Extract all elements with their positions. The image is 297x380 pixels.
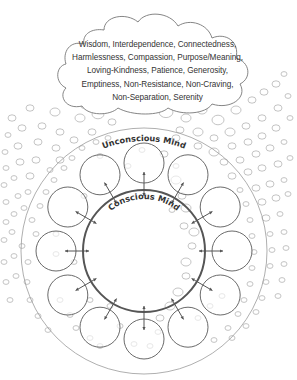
bubble-icon — [93, 140, 99, 145]
small-circle — [200, 187, 240, 227]
bubble-icon — [287, 156, 293, 161]
bubble-icon — [267, 264, 273, 269]
small-circle — [200, 275, 240, 315]
bubble-icon — [2, 150, 8, 155]
bubble-icon — [25, 190, 31, 195]
cloud-text-line: Wisdom, Interdependence, Connectedness, — [70, 38, 245, 51]
bubble-icon — [212, 115, 224, 125]
bubble-icon — [29, 218, 35, 223]
bubble-icon — [260, 89, 268, 95]
bubble-icon — [70, 137, 78, 143]
bubble-icon — [235, 312, 241, 317]
bubble-icon — [1, 183, 7, 188]
bubble-icon — [228, 173, 236, 179]
bubble-icon — [21, 206, 27, 211]
bubble-icon — [263, 280, 269, 285]
bubble-icon — [26, 105, 34, 111]
bubble-icon — [181, 114, 191, 122]
bubble-icon — [181, 258, 191, 266]
bubble-icon — [253, 310, 259, 315]
bubble-icon — [225, 128, 235, 136]
bubble-icon — [267, 232, 273, 237]
bubble-icon — [25, 260, 31, 265]
bubble-icon — [266, 145, 274, 151]
bubble-icon — [272, 195, 280, 201]
bubble-icon — [252, 185, 260, 191]
bubble-icon — [281, 230, 287, 235]
bubble-icon — [14, 143, 22, 149]
bubble-icon — [33, 232, 39, 237]
bubble-icon — [11, 254, 17, 259]
bubble-icon — [156, 315, 164, 321]
bubble-icon — [259, 296, 265, 301]
bubble-icon — [247, 218, 253, 223]
bubble-icon — [237, 188, 243, 193]
bubble-icon — [34, 139, 42, 145]
bubble-icon — [244, 169, 252, 175]
bubble-icon — [243, 324, 249, 329]
bubble-icon — [32, 157, 40, 163]
bubble-icon — [211, 338, 217, 343]
bubble-icon — [13, 274, 19, 279]
bubble-icon — [285, 94, 291, 99]
bubble-icon — [242, 123, 250, 129]
bubble-icon — [11, 176, 17, 181]
bubble-icon — [15, 194, 21, 199]
small-circle — [48, 187, 88, 227]
bubble-icon — [18, 125, 26, 131]
bubble-icon — [1, 238, 7, 243]
bubble-icon — [11, 212, 17, 217]
bubble-icon — [9, 230, 15, 235]
bubble-icon — [258, 199, 266, 205]
bubble-icon — [189, 228, 199, 236]
bubble-icon — [241, 298, 247, 303]
bubble-icon — [88, 129, 96, 135]
bubble-icon — [52, 145, 60, 151]
bubble-icon — [281, 178, 287, 183]
bubble-icon — [225, 326, 231, 331]
bubble-icon — [287, 116, 293, 121]
bubble-icon — [26, 173, 34, 179]
bubble-icon — [75, 114, 85, 122]
bubble-icon — [258, 133, 266, 139]
bubble-icon — [16, 159, 24, 165]
cloud-text: Wisdom, Interdependence, Connectedness, … — [70, 38, 245, 104]
bubble-icon — [7, 298, 13, 303]
bubble-icon — [194, 143, 202, 149]
bubble-icon — [228, 143, 236, 149]
bubble-icon — [35, 314, 41, 319]
bubble-icon — [5, 133, 11, 138]
bubble-icon — [243, 202, 249, 207]
bubble-icon — [266, 181, 274, 187]
bubble-icon — [38, 123, 46, 129]
small-circle — [48, 275, 88, 315]
bubble-icon — [272, 81, 280, 87]
bubble-icon — [51, 178, 57, 183]
bubble-icon — [56, 129, 64, 135]
small-circle — [168, 307, 208, 347]
bubble-icon — [173, 288, 183, 296]
bubble-icon — [236, 157, 244, 163]
conscious-mind-label: Conscious Mind — [106, 191, 182, 213]
bubble-icon — [180, 223, 188, 229]
bubble-icon — [182, 273, 190, 279]
bubble-icon — [229, 336, 235, 341]
small-circle — [80, 155, 120, 195]
bubble-icon — [37, 204, 43, 209]
bubble-icon — [277, 212, 283, 217]
bubble-icon — [61, 166, 67, 171]
bubble-icon — [248, 97, 256, 103]
bubble-icon — [188, 243, 196, 249]
bubble-icon — [210, 135, 218, 141]
bubble-icon — [275, 294, 281, 299]
bubble-icon — [283, 246, 289, 251]
bubble-icon — [269, 248, 275, 253]
bubble-icon — [50, 108, 60, 116]
small-circle — [168, 155, 208, 195]
bubble-icon — [56, 157, 64, 163]
bubble-icon — [3, 280, 9, 285]
bubble-icon — [252, 151, 260, 157]
conscious-mind-circle — [83, 190, 205, 312]
bubble-icon — [281, 140, 287, 145]
bubble-icon — [69, 156, 75, 161]
